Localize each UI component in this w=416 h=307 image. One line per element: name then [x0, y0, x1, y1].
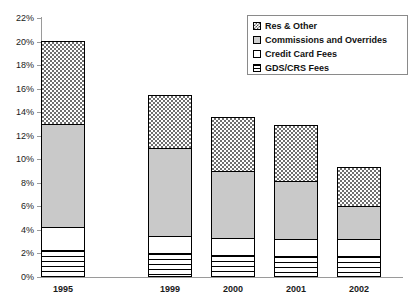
bar-segment-commissions-and-overrides[interactable]: [211, 171, 255, 239]
bar-segment-gds-crs-fees[interactable]: [41, 250, 85, 277]
y-axis-tick-label: 14%: [16, 107, 34, 117]
y-axis-tick-label: 4%: [21, 225, 34, 235]
bar-segment-gds-crs-fees[interactable]: [274, 256, 318, 277]
y-axis-tick-label: 22%: [16, 13, 34, 23]
y-axis-tick-label: 18%: [16, 60, 34, 70]
x-axis-label-2001: 2001: [266, 284, 326, 294]
bar-segment-res-other[interactable]: [148, 95, 192, 149]
bar-segment-credit-card-fees[interactable]: [337, 239, 381, 257]
legend-item-gds-crs-fees[interactable]: GDS/CRS Fees: [253, 61, 403, 75]
legend-item-commissions-and-overrides[interactable]: Commissions and Overrides: [253, 33, 403, 47]
bar-segment-res-other[interactable]: [274, 125, 318, 182]
diagonal-crosshatch-swatch-icon: [253, 22, 261, 30]
legend-item-res-other[interactable]: Res & Other: [253, 19, 403, 33]
y-axis-tick-label: 16%: [16, 84, 34, 94]
bar-segment-gds-crs-fees[interactable]: [211, 255, 255, 277]
x-axis-label-2002: 2002: [329, 284, 389, 294]
bar-segment-credit-card-fees[interactable]: [211, 238, 255, 256]
bar-segment-credit-card-fees[interactable]: [148, 236, 192, 254]
y-axis-tick-label: 12%: [16, 131, 34, 141]
bar-segment-commissions-and-overrides[interactable]: [274, 181, 318, 240]
stacked-bar-chart: 0%2%4%6%8%10%12%14%16%18%20%22% 19951999…: [0, 0, 416, 307]
bar-1999[interactable]: [148, 95, 192, 277]
x-axis-line: [41, 277, 403, 278]
legend-item-credit-card-fees[interactable]: Credit Card Fees: [253, 47, 403, 61]
bar-2001[interactable]: [274, 125, 318, 277]
chart-legend: Res & Other Commissions and Overrides Cr…: [247, 15, 408, 75]
x-axis-label-2000: 2000: [203, 284, 263, 294]
y-axis-tick-label: 0%: [21, 272, 34, 282]
legend-label: GDS/CRS Fees: [265, 63, 329, 73]
horizontal-lines-swatch-icon: [253, 64, 261, 72]
bar-2000[interactable]: [211, 117, 255, 277]
x-axis-label-1995: 1995: [33, 284, 93, 294]
legend-label: Commissions and Overrides: [265, 35, 387, 45]
bar-1995[interactable]: [41, 41, 85, 277]
y-axis-tick-label: 20%: [16, 37, 34, 47]
bar-segment-res-other[interactable]: [211, 117, 255, 172]
bar-segment-gds-crs-fees[interactable]: [148, 253, 192, 277]
bar-segment-res-other[interactable]: [337, 167, 381, 207]
legend-label: Res & Other: [265, 21, 317, 31]
y-axis-tick-label: 10%: [16, 154, 34, 164]
bar-segment-credit-card-fees[interactable]: [41, 227, 85, 251]
y-axis-tick-label: 8%: [21, 178, 34, 188]
y-axis-tick-label: 6%: [21, 201, 34, 211]
bar-segment-credit-card-fees[interactable]: [274, 239, 318, 257]
y-axis-tick-label: 2%: [21, 248, 34, 258]
solid-gray-swatch-icon: [253, 36, 261, 44]
y-axis-ticks: 0%2%4%6%8%10%12%14%16%18%20%22%: [0, 0, 41, 295]
bar-2002[interactable]: [337, 167, 381, 277]
bar-segment-res-other[interactable]: [41, 41, 85, 125]
bar-segment-commissions-and-overrides[interactable]: [41, 124, 85, 228]
bar-segment-gds-crs-fees[interactable]: [337, 256, 381, 277]
bar-segment-commissions-and-overrides[interactable]: [337, 206, 381, 240]
white-swatch-icon: [253, 50, 261, 58]
legend-label: Credit Card Fees: [265, 49, 337, 59]
bar-segment-commissions-and-overrides[interactable]: [148, 148, 192, 237]
x-axis-label-1999: 1999: [140, 284, 200, 294]
